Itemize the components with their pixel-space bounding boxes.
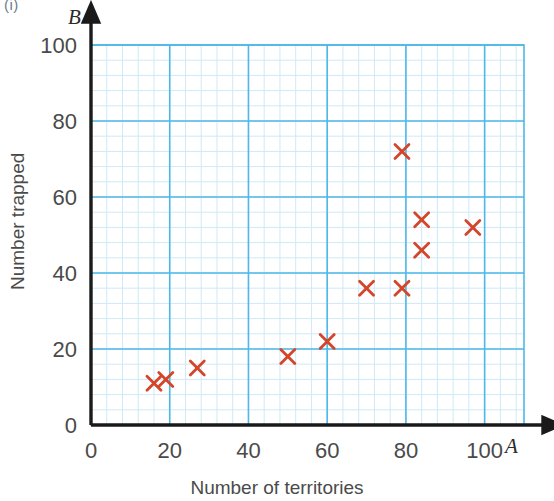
y-tick-label: 40 — [53, 261, 77, 286]
chart-canvas: 020406080100020406080100 B A Number trap… — [0, 0, 554, 501]
grid-major-lines — [91, 45, 524, 425]
y-tick-label: 100 — [40, 33, 77, 58]
grid-minor-lines — [91, 45, 524, 425]
x-tick-label: 20 — [157, 438, 181, 463]
y-tick-label: 0 — [65, 413, 77, 438]
x-axis-title: Number of territories — [190, 477, 363, 498]
y-tick-label: 20 — [53, 337, 77, 362]
x-tick-label: 0 — [85, 438, 97, 463]
data-point-markers — [147, 144, 480, 390]
x-tick-label: 60 — [315, 438, 339, 463]
y-tick-label: 60 — [53, 185, 77, 210]
tick-labels: 020406080100020406080100 — [40, 33, 503, 463]
y-tick-label: 80 — [53, 109, 77, 134]
data-point-marker — [190, 361, 204, 375]
x-tick-label: 80 — [394, 438, 418, 463]
data-point-marker — [281, 350, 295, 364]
scatter-plot-figure: (i) 020406080100020406080100 B A Number … — [0, 0, 554, 501]
x-axis-variable-label: A — [503, 434, 518, 458]
x-tick-label: 40 — [236, 438, 260, 463]
x-tick-label: 100 — [466, 438, 503, 463]
plot-frame — [91, 45, 524, 425]
y-axis-variable-label: B — [68, 5, 81, 29]
y-axis-title: Number trapped — [7, 153, 28, 290]
